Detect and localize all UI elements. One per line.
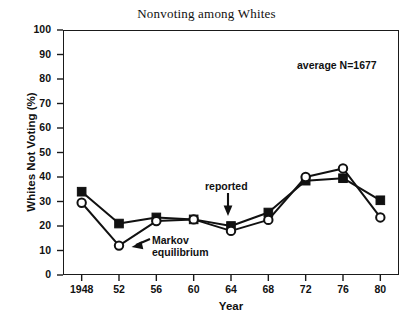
marker-markov [227,227,235,235]
chart-canvas [0,0,413,329]
y-tick-label: 10 [17,244,51,256]
y-tick-label: 70 [17,97,51,109]
marker-markov [264,216,272,224]
x-axis-ticks [82,275,381,281]
series-line-reported [82,178,381,226]
annotation-arrows [132,193,233,249]
y-tick-label: 80 [17,72,51,84]
marker-markov [115,241,123,249]
y-tick-label: 60 [17,121,51,133]
y-tick-label: 40 [17,170,51,182]
marker-markov [301,173,309,181]
y-tick-label: 20 [17,219,51,231]
reported-arrow-head [224,206,233,217]
y-tick-label: 100 [17,23,51,35]
marker-reported [77,187,86,196]
x-tick-label: 80 [358,283,402,295]
y-axis-ticks [57,30,63,275]
chart-figure: Nonvoting among Whites Whites Not Voting… [0,0,413,329]
markov-arrow-head [132,241,144,249]
marker-markov [152,217,160,225]
y-tick-label: 50 [17,146,51,158]
y-tick-label: 30 [17,195,51,207]
marker-markov [77,199,85,207]
marker-markov [376,213,384,221]
marker-reported [376,196,385,205]
marker-reported [339,174,348,183]
marker-markov [339,164,347,172]
y-tick-label: 0 [17,268,51,280]
marker-reported [115,219,124,228]
y-tick-label: 90 [17,48,51,60]
marker-markov [189,215,197,223]
